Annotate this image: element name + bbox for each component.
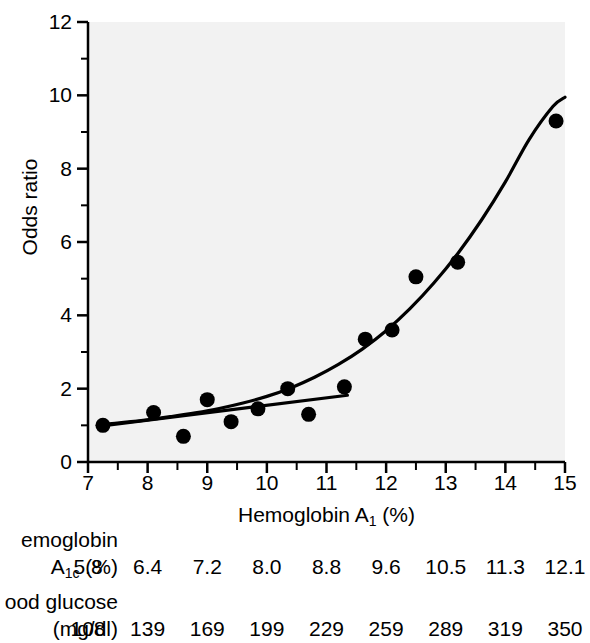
table-cell: 5.8 bbox=[60, 555, 116, 579]
hba1c-row-title: emoglobin bbox=[0, 528, 118, 552]
x-tick-label: 12 bbox=[366, 472, 406, 493]
table-cell: 9.6 bbox=[358, 555, 414, 579]
table-cell: 108 bbox=[60, 617, 116, 641]
fit-lines bbox=[100, 97, 565, 426]
x-tick-label: 15 bbox=[545, 472, 585, 493]
x-tick-label: 7 bbox=[68, 472, 108, 493]
table-cell: 12.1 bbox=[537, 555, 590, 579]
table-cell: 319 bbox=[477, 617, 533, 641]
table-cell: 229 bbox=[299, 617, 355, 641]
table-cell: 6.4 bbox=[120, 555, 176, 579]
table-row-glucose: (mg/dl) 108 139 169 199 229 259 289 319 … bbox=[0, 617, 580, 643]
x-tick-label: 14 bbox=[485, 472, 525, 493]
x-axis-title: Hemoglobin A1 (%) bbox=[88, 503, 565, 529]
y-tick-label: 4 bbox=[28, 304, 72, 325]
table-cell: 10.5 bbox=[418, 555, 474, 579]
y-axis bbox=[77, 22, 88, 462]
y-tick-label: 2 bbox=[28, 378, 72, 399]
x-tick-label: 9 bbox=[187, 472, 227, 493]
table-cell: 139 bbox=[120, 617, 176, 641]
table-cell: 7.2 bbox=[179, 555, 235, 579]
x-tick-labels: 789101112131415 bbox=[0, 472, 580, 500]
table-row-glucose-title: ood glucose bbox=[0, 590, 580, 616]
y-axis-title: Odds ratio bbox=[18, 127, 42, 287]
data-points bbox=[95, 114, 563, 444]
x-axis-title-main: Hemoglobin A bbox=[238, 503, 369, 526]
y-tick-label: 12 bbox=[28, 11, 72, 32]
table-cell: 350 bbox=[537, 617, 590, 641]
table-cell: 8.8 bbox=[299, 555, 355, 579]
table-row-hba1c-title: emoglobin bbox=[0, 528, 580, 554]
table-cell: 289 bbox=[418, 617, 474, 641]
table-cell: 199 bbox=[239, 617, 295, 641]
table-cell: 8.0 bbox=[239, 555, 295, 579]
x-tick-label: 10 bbox=[247, 472, 287, 493]
y-tick-label: 10 bbox=[28, 84, 72, 105]
table-cell: 169 bbox=[179, 617, 235, 641]
y-tick-label: 0 bbox=[28, 451, 72, 472]
glucose-row-title: ood glucose bbox=[0, 590, 118, 614]
x-axis-title-tail: (%) bbox=[377, 503, 416, 526]
x-axis-title-subscript: 1 bbox=[369, 513, 377, 529]
table-cell: 259 bbox=[358, 617, 414, 641]
table-row-hba1c: A1c (%) 5.8 6.4 7.2 8.0 8.8 9.6 10.5 11.… bbox=[0, 555, 580, 581]
table-cell: 11.3 bbox=[477, 555, 533, 579]
x-tick-label: 8 bbox=[128, 472, 168, 493]
x-tick-label: 11 bbox=[307, 472, 347, 493]
x-tick-label: 13 bbox=[426, 472, 466, 493]
